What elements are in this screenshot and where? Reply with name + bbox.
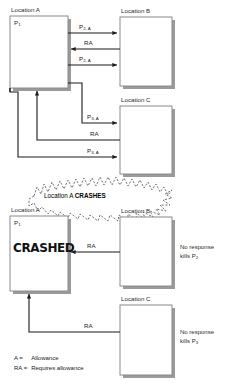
legend-row-requires-allowance: RA = Requires allowance: [14, 364, 84, 374]
edge-label-ra-top: RA: [84, 40, 93, 46]
edge-label-p3a-1: P3, A: [87, 114, 99, 120]
label-location-c-top: Location C: [121, 97, 151, 103]
note-no-response-kills-p2: No response kills P2: [180, 243, 214, 260]
note-no-response-kills-p3: No response kills P3: [180, 328, 214, 345]
box-location-b-top: [120, 17, 175, 89]
box-location-a-top: [10, 16, 71, 91]
edge-c-to-a-ra-bottom: [29, 294, 120, 332]
edge-label-p3a-2: P3, A: [87, 148, 99, 154]
edge-label-ra-mid: RA: [90, 131, 99, 137]
edge-label-p2a-2: P2, A: [79, 56, 91, 62]
box-location-c-top: [120, 106, 175, 177]
crashed-stamp: CRASHED: [13, 241, 74, 255]
label-location-a-bottom: Location A: [11, 207, 40, 213]
label-location-c-bottom: Location C: [121, 296, 151, 302]
box-location-c-bottom: [120, 305, 175, 378]
legend-key-a: A =: [14, 354, 31, 364]
crash-burst-label: Location A CRASHES: [44, 193, 106, 199]
legend-text-ra: Requires allowance: [31, 364, 83, 374]
legend-row-allowance: A = Allowance: [14, 354, 84, 364]
edge-label-ra-bottom-c: RA: [84, 323, 93, 329]
legend-key-ra: RA =: [14, 364, 31, 374]
diagram-canvas: Location A P1 Location B Location C P2, …: [0, 0, 225, 389]
box-location-a-bottom: [10, 216, 71, 294]
label-location-b-top: Location B: [121, 8, 150, 14]
label-location-a-top: Location A: [11, 7, 40, 13]
box-location-b-bottom: [120, 217, 175, 289]
legend-text-a: Allowance: [31, 354, 83, 364]
edge-label-p2a-1: P2, A: [79, 24, 91, 30]
label-process-p1-top: P1: [14, 20, 21, 26]
label-location-b-bottom: Location B: [121, 208, 150, 214]
label-process-p1-bottom: P1: [14, 220, 21, 226]
edge-c-to-a-ra: [37, 91, 120, 140]
legend: A = Allowance RA = Requires allowance: [14, 354, 84, 374]
edge-label-ra-bottom-b: RA: [87, 243, 96, 249]
